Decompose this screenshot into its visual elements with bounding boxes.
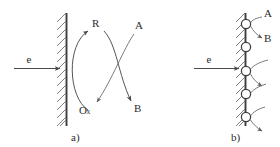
panel-b-electron-label: e — [207, 53, 212, 65]
panel-b-site-2 — [241, 42, 250, 51]
panel-a-label-oxidized-suffix: x — [87, 107, 91, 116]
panel-b: e A B b) — [194, 7, 272, 144]
panel-b-label-product: B — [264, 32, 271, 44]
panel-b-arc-in-3 — [251, 60, 269, 69]
panel-b-caption: b) — [231, 131, 241, 144]
panel-b-arc-in-4 — [251, 84, 267, 93]
panel-b-site-3 — [241, 66, 250, 75]
panel-b-arc-out-1 — [251, 26, 263, 38]
panel-a-label-reduced: R — [92, 17, 100, 29]
panel-a-caption: a) — [71, 131, 80, 144]
panel-b-label-substrate: A — [264, 7, 272, 19]
panel-a-arc-a-to-ox — [97, 34, 134, 102]
panel-a-arc-r-to-b — [104, 31, 131, 101]
panel-a: e R O x A B a) — [14, 13, 143, 144]
panel-b-site-5 — [241, 112, 250, 121]
panel-b-site-1 — [241, 19, 250, 28]
panel-b-arc-in-1 — [251, 17, 263, 23]
panel-a-label-substrate: A — [135, 19, 143, 31]
panel-b-site-4 — [241, 89, 250, 98]
panel-b-arc-out-5 — [251, 120, 263, 131]
figure-container: e R O x A B a) — [0, 0, 280, 147]
panel-a-electrode — [57, 13, 67, 126]
panel-a-label-product: B — [134, 102, 141, 114]
panel-b-arc-out-3 — [251, 74, 263, 86]
panel-a-hatching — [57, 13, 66, 126]
figure-svg: e R O x A B a) — [0, 0, 280, 147]
panel-b-arc-in-5 — [251, 107, 266, 116]
panel-a-label-oxidized: O x — [79, 104, 91, 116]
panel-a-cycle-left-arc — [72, 31, 88, 110]
panel-a-electron-label: e — [27, 53, 32, 65]
